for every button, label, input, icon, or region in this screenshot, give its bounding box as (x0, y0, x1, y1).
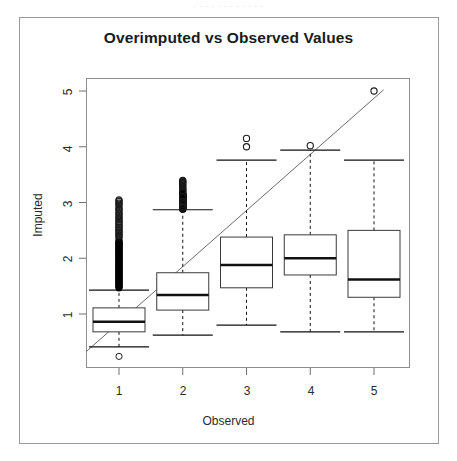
x-tick-label-3: 3 (235, 384, 259, 398)
y-tick-label-4: 4 (61, 138, 75, 160)
y-tick-label-1: 1 (61, 304, 75, 326)
x-tick-label-2: 2 (171, 384, 195, 398)
chart-title: Overimputed vs Observed Values (0, 29, 457, 47)
y-tick-label-3: 3 (61, 193, 75, 215)
x-tick-label-4: 4 (299, 384, 323, 398)
scan-top-partial-text: · · · · · · · · · · · · (0, 0, 457, 12)
plot-area (86, 78, 410, 368)
y-tick-label-2: 2 (61, 248, 75, 270)
y-tick-label-5: 5 (61, 81, 75, 103)
figure-page: · · · · · · · · · · · · Overimputed vs O… (0, 0, 457, 461)
x-tick-label-5: 5 (362, 384, 386, 398)
y-axis-title: Imputed (31, 185, 45, 245)
x-axis-title: Observed (0, 414, 457, 428)
x-tick-label-1: 1 (107, 384, 131, 398)
